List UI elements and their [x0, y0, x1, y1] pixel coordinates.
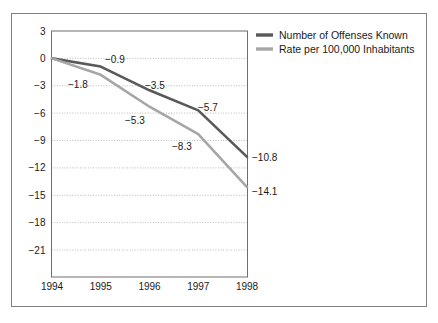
y-tick-label: −15 [29, 190, 46, 201]
chart-figure: 30−3−6−9−12−15−18−21 1994199519961997199… [0, 0, 438, 323]
y-tick-label: −18 [29, 217, 46, 228]
x-tick-label: 1996 [138, 281, 161, 292]
chart-legend: Number of Offenses KnownRate per 100,000… [256, 29, 414, 55]
y-tick-label: −3 [34, 80, 46, 91]
y-tick-label: −6 [34, 108, 46, 119]
legend-label-0: Number of Offenses Known [279, 29, 408, 41]
x-tick-label: 1994 [41, 281, 64, 292]
y-tick-label: −21 [29, 245, 46, 256]
y-axis-tick-labels: 30−3−6−9−12−15−18−21 [29, 26, 46, 256]
x-tick-label: 1995 [90, 281, 113, 292]
y-tick-label: 3 [40, 26, 46, 37]
data-point-label: −10.8 [252, 152, 278, 163]
x-tick-label: 1998 [236, 281, 259, 292]
series-lines-group [52, 58, 247, 187]
data-point-label: −3.5 [145, 80, 165, 91]
data-point-label: −0.9 [105, 54, 125, 65]
y-tick-label: 0 [40, 53, 46, 64]
series-line-1 [52, 58, 247, 187]
x-axis-tick-labels: 19941995199619971998 [41, 281, 259, 292]
data-point-label: −1.8 [68, 79, 88, 90]
data-point-label: −14.1 [252, 186, 278, 197]
data-point-label: −8.3 [172, 141, 192, 152]
y-tick-label: −12 [29, 162, 46, 173]
legend-label-1: Rate per 100,000 Inhabitants [279, 43, 414, 55]
data-point-label: −5.7 [198, 102, 218, 113]
x-tick-label: 1997 [187, 281, 210, 292]
y-tick-label: −9 [34, 135, 46, 146]
data-point-label: −5.3 [125, 115, 145, 126]
line-chart-plot: 30−3−6−9−12−15−18−21 1994199519961997199… [0, 0, 438, 323]
